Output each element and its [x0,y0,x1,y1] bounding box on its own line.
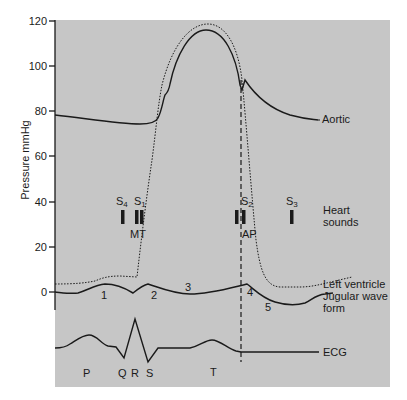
tick-40: 40 [35,196,47,208]
left-ventricle-label: Left ventricle [323,278,385,290]
wave-4: 4 [247,286,253,298]
ecg-p-label: P [83,367,90,379]
y-axis [49,20,55,310]
wave-5: 5 [265,301,271,313]
wiggers-diagram: 120 100 80 60 40 20 0 Pressure mmHg Aort… [0,0,407,400]
wave-1: 1 [101,289,107,301]
ecg-label: ECG [323,346,347,358]
y-tick-labels: 120 100 80 60 40 20 0 [29,15,47,298]
tick-80: 80 [35,105,47,117]
tick-100: 100 [29,60,47,72]
aortic-label: Aortic [322,113,351,125]
ecg-s-label: S [146,367,153,379]
s1-bar-b [140,210,144,224]
s4-bar [121,210,125,224]
tick-0: 0 [41,286,47,298]
ap-label: AP [242,228,257,240]
ecg-q-label: Q [118,367,127,379]
jugular-label: Jugular wave [323,290,388,302]
sounds-label: sounds [323,216,359,228]
wave-2: 2 [151,289,157,301]
jugular-form-label: form [323,302,345,314]
tick-60: 60 [35,150,47,162]
ecg-r-label: R [131,367,139,379]
wave-3: 3 [185,281,191,293]
heart-label: Heart [323,204,350,216]
s1-bar-a [135,210,139,224]
y-axis-label: Pressure mmHg [19,120,31,199]
s2-bar-b [242,210,246,224]
tick-120: 120 [29,15,47,27]
s2-bar-a [235,210,239,224]
mt-label: MT [130,228,146,240]
ecg-t-label: T [210,366,217,378]
s3-bar [290,210,294,224]
tick-20: 20 [35,241,47,253]
